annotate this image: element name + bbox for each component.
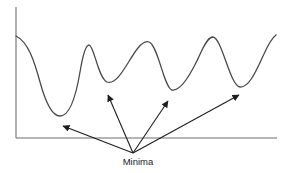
arrow-to-minimum-4 (133, 95, 239, 153)
arrow-to-minimum-1 (63, 126, 133, 153)
function-curve (16, 35, 276, 116)
minima-diagram: Minima (0, 0, 288, 173)
arrows-group (63, 95, 239, 153)
arrow-to-minimum-3 (133, 101, 168, 153)
minima-label: Minima (123, 156, 154, 167)
